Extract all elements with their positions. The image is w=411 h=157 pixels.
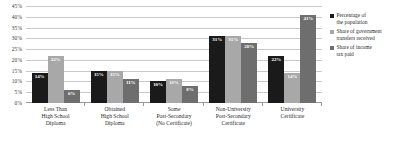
bar-value-label: 22% (268, 57, 284, 63)
y-axis-tick-label: 10% (12, 78, 22, 84)
bar-fill: 15% (91, 71, 107, 103)
legend-swatch-icon (330, 14, 334, 18)
legend-swatch-icon (330, 30, 334, 34)
bar-groups: 14%22%6%15%15%11%10%11%8%31%31%28%22%14%… (26, 6, 322, 103)
bar[interactable]: 14% (32, 73, 48, 103)
bar-value-label: 28% (241, 44, 257, 50)
bar[interactable]: 41% (300, 15, 316, 103)
chart-legend: Percentage ofthe populationShare of gove… (330, 12, 410, 61)
bar[interactable]: 28% (241, 43, 257, 103)
bar[interactable]: 31% (209, 36, 225, 103)
x-axis-category-line: Some (145, 106, 202, 113)
legend-label-line: transfers received (337, 35, 382, 42)
bar-fill: 31% (209, 36, 225, 103)
y-axis-tick-label: 0% (15, 100, 22, 106)
bar-fill: 22% (48, 56, 64, 103)
x-axis-category-line: Less Than (27, 106, 84, 113)
y-axis-tick-label: 20% (12, 57, 22, 63)
bar-fill: 41% (300, 15, 316, 103)
bar-value-label: 14% (32, 74, 48, 80)
x-axis-category-label: ObtainedHigh SchoolDiploma (85, 106, 144, 128)
bar[interactable]: 14% (284, 73, 300, 103)
x-axis-category-line: University (264, 106, 321, 113)
bar[interactable]: 6% (64, 90, 80, 103)
bar-group: 31%31%28% (204, 6, 263, 103)
bar-value-label: 10% (150, 82, 166, 88)
x-axis-category-line: Post-Secondary (145, 113, 202, 120)
legend-item[interactable]: Share of governmenttransfers received (330, 28, 410, 41)
legend-label-line: the population (337, 19, 368, 26)
bar[interactable]: 31% (225, 36, 241, 103)
x-axis-labels: Less ThanHigh SchoolDiplomaObtainedHigh … (26, 106, 322, 128)
bar-fill: 11% (166, 79, 182, 103)
bar-group: 15%15%11% (85, 6, 144, 103)
legend-label-line: tax paid (337, 51, 372, 58)
bar[interactable]: 11% (166, 79, 182, 103)
bar-group: 10%11%8% (144, 6, 203, 103)
x-axis-category-line: High School (27, 113, 84, 120)
bar-value-label: 31% (209, 37, 225, 43)
legend-item[interactable]: Percentage ofthe population (330, 12, 410, 25)
bar-value-label: 41% (300, 16, 316, 22)
bar[interactable]: 11% (123, 79, 139, 103)
bar-fill: 11% (123, 79, 139, 103)
x-axis-category-line: High School (86, 113, 143, 120)
legend-label: Share of incometax paid (337, 44, 372, 57)
x-axis-category-line: Diploma (27, 120, 84, 127)
bar-value-label: 11% (123, 80, 139, 86)
y-axis-tick-label: 30% (12, 35, 22, 41)
legend-label: Share of governmenttransfers received (337, 28, 382, 41)
x-axis-category-line: Diploma (86, 120, 143, 127)
bar-value-label: 6% (64, 91, 80, 97)
bar[interactable]: 8% (182, 86, 198, 103)
x-axis-category-line: Non-University (205, 106, 262, 113)
y-axis-tick-label: 45% (12, 3, 22, 9)
legend-item[interactable]: Share of incometax paid (330, 44, 410, 57)
bar-value-label: 15% (91, 72, 107, 78)
bar-value-label: 11% (166, 80, 182, 86)
bar[interactable]: 22% (48, 56, 64, 103)
bar-chart: 0%5%10%15%20%25%30%35%40%45% 14%22%6%15%… (0, 0, 411, 157)
bar-fill: 15% (107, 71, 123, 103)
x-axis-category-label: UniversityCertificate (263, 106, 322, 128)
plot-area: 14%22%6%15%15%11%10%11%8%31%31%28%22%14%… (26, 6, 322, 103)
bar-fill: 6% (64, 90, 80, 103)
bar[interactable]: 10% (150, 81, 166, 103)
legend-label: Percentage ofthe population (337, 12, 368, 25)
legend-label-line: Percentage of (337, 12, 368, 19)
bar[interactable]: 15% (107, 71, 123, 103)
bar-value-label: 14% (284, 74, 300, 80)
x-axis-category-line: Certificate (205, 120, 262, 127)
bar-value-label: 8% (182, 87, 198, 93)
bar-fill: 31% (225, 36, 241, 103)
bar-value-label: 22% (48, 57, 64, 63)
legend-swatch-icon (330, 46, 334, 50)
bar-fill: 14% (32, 73, 48, 103)
bar-fill: 8% (182, 86, 198, 103)
x-axis-category-line: Post-Secondary (205, 113, 262, 120)
bar-value-label: 15% (107, 72, 123, 78)
x-axis-category-label: SomePost-Secondary(No Certificate) (144, 106, 203, 128)
y-axis-labels: 0%5%10%15%20%25%30%35%40%45% (0, 6, 24, 103)
bar-fill: 22% (268, 56, 284, 103)
bar-value-label: 31% (225, 37, 241, 43)
y-axis-tick-label: 5% (15, 89, 22, 95)
x-axis-category-line: Certificate (264, 113, 321, 120)
x-axis-category-label: Less ThanHigh SchoolDiploma (26, 106, 85, 128)
x-axis-category-line: Obtained (86, 106, 143, 113)
bar-fill: 28% (241, 43, 257, 103)
bar-fill: 14% (284, 73, 300, 103)
x-axis-category-line: (No Certificate) (145, 120, 202, 127)
y-axis-tick-label: 15% (12, 68, 22, 74)
y-axis-tick-label: 40% (12, 14, 22, 20)
bar-group: 14%22%6% (26, 6, 85, 103)
legend-label-line: Share of income (337, 44, 372, 51)
legend-label-line: Share of government (337, 28, 382, 35)
bar[interactable]: 22% (268, 56, 284, 103)
y-axis-tick-label: 25% (12, 46, 22, 52)
bar[interactable]: 15% (91, 71, 107, 103)
y-axis-tick-label: 35% (12, 25, 22, 31)
bar-fill: 10% (150, 81, 166, 103)
bar-group: 22%14%41% (263, 6, 322, 103)
x-axis-category-label: Non-UniversityPost-SecondaryCertificate (204, 106, 263, 128)
